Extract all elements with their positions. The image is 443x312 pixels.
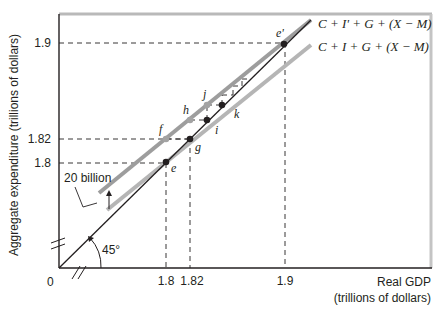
y-axis-break: [51, 238, 65, 249]
point-j: [204, 102, 211, 109]
label-j: j: [201, 87, 207, 101]
shift-label: 20 billion: [64, 171, 111, 185]
label-f: f: [159, 122, 164, 136]
angle-label: 45°: [102, 243, 120, 257]
point-g: [187, 136, 194, 143]
point-k: [219, 102, 226, 109]
label-k: k: [234, 107, 240, 121]
45-degree-line: [59, 20, 311, 268]
point-e-prime: [281, 41, 288, 48]
x-tick-1-8: 1.8: [158, 274, 175, 288]
curve-label-lower: C + I + G + (X − M): [318, 39, 429, 54]
label-h: h: [183, 103, 189, 117]
point-i: [204, 117, 211, 124]
shift-arrow-head-icon: [106, 190, 112, 196]
label-e: e: [171, 161, 177, 175]
shift-leader-line: [75, 187, 97, 207]
ae-curve-lower: [107, 45, 311, 210]
x-tick-1-82: 1.82: [180, 274, 204, 288]
label-e-prime: e': [276, 26, 284, 40]
x-axis-unit: (trillions of dollars): [334, 291, 431, 305]
chart: e f g h i j k e' C + I' + G + (X − M) C …: [0, 0, 443, 312]
curve-label-upper: C + I' + G + (X − M): [318, 16, 432, 31]
label-i: i: [215, 123, 218, 137]
point-h: [187, 117, 194, 124]
point-e: [163, 159, 170, 166]
x-tick-1-9: 1.9: [277, 274, 294, 288]
y-tick-1-9: 1.9: [34, 36, 51, 50]
label-g: g: [195, 140, 201, 154]
origin-label: 0: [47, 275, 54, 289]
point-f: [163, 136, 170, 143]
angle-arc: [90, 238, 101, 268]
y-tick-1-82: 1.82: [28, 132, 52, 146]
y-axis-title: Aggregate expenditure (trillions of doll…: [7, 34, 21, 256]
y-tick-1-8: 1.8: [34, 156, 51, 170]
x-axis-title: Real GDP: [377, 275, 431, 289]
